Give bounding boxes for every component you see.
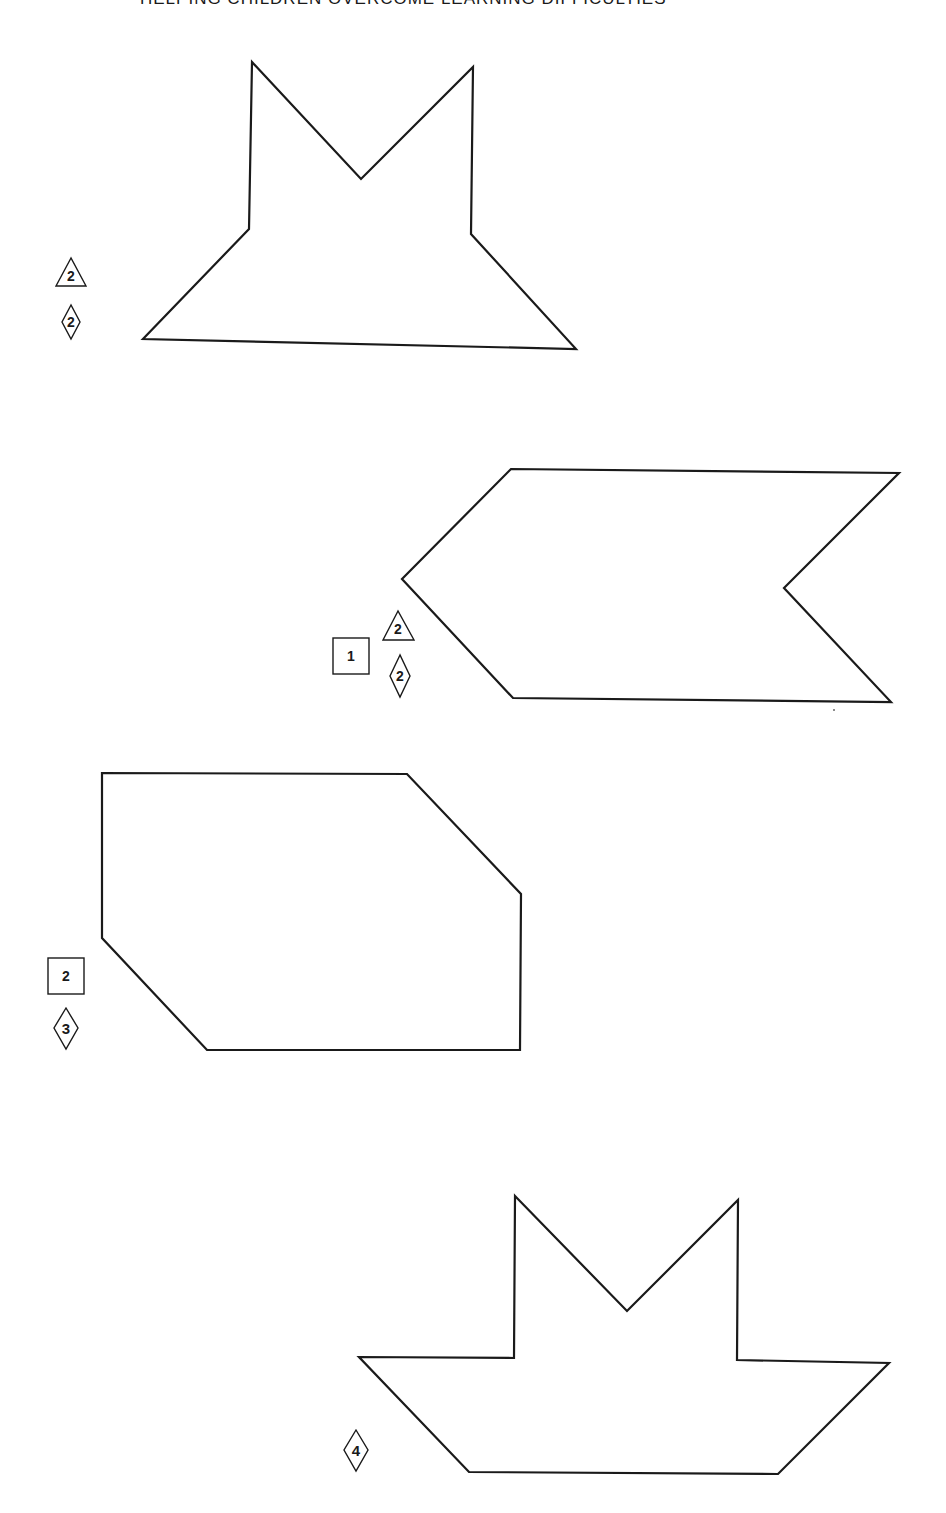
- stray-speck: [833, 709, 835, 711]
- diamond-marker: 3: [54, 1008, 78, 1049]
- marker-label: 3: [62, 1020, 70, 1037]
- figure-3: 2 3: [48, 773, 521, 1050]
- figure-4: 4: [344, 1196, 889, 1474]
- marker-label: 2: [62, 968, 70, 984]
- boat-shape-outline: [359, 1196, 889, 1474]
- figure-1: 2 2: [56, 62, 576, 349]
- marker-label: 1: [347, 648, 355, 664]
- crown-shape-outline: [143, 62, 576, 349]
- marker-label: 2: [396, 668, 404, 684]
- marker-label: 2: [394, 621, 402, 637]
- triangle-marker: 2: [56, 258, 86, 286]
- marker-label: 2: [67, 314, 75, 330]
- hexagon-shape-outline: [102, 773, 521, 1050]
- square-marker: 1: [333, 638, 369, 674]
- triangle-marker: 2: [383, 611, 414, 640]
- diamond-marker: 4: [344, 1430, 368, 1471]
- figure-2: 1 2 2: [333, 469, 899, 711]
- worksheet-canvas: 2 2 1 2 2 2 3: [0, 0, 946, 1513]
- marker-label: 4: [352, 1442, 361, 1459]
- diamond-marker: 2: [390, 655, 410, 697]
- diamond-marker: 2: [62, 305, 80, 339]
- chevron-shape-outline: [402, 469, 899, 702]
- marker-label: 2: [67, 268, 75, 284]
- square-marker: 2: [48, 958, 84, 994]
